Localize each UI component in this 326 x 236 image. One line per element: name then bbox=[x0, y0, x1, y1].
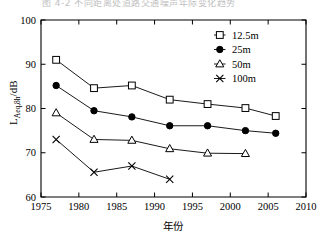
series-line bbox=[56, 113, 245, 154]
marker-open-square bbox=[53, 56, 60, 63]
marker-open-square bbox=[272, 113, 279, 120]
marker-open-square bbox=[91, 85, 98, 92]
legend-item-12.5m: 12.5m bbox=[214, 30, 259, 41]
marker-filled-circle bbox=[242, 127, 248, 133]
x-axis-title: 年份 bbox=[163, 220, 184, 232]
marker-open-square bbox=[128, 82, 135, 89]
y-title-unit: /dB bbox=[7, 80, 19, 96]
x-tick-label: 1985 bbox=[106, 201, 127, 212]
y-tick-label: 60 bbox=[26, 192, 37, 203]
marker-open-square bbox=[216, 32, 223, 39]
axis-ticks bbox=[41, 20, 306, 197]
legend-label: 25m bbox=[232, 44, 251, 55]
y-tick-label: 100 bbox=[20, 15, 36, 26]
x-tick-label: 1995 bbox=[182, 201, 203, 212]
legend-item-25m: 25m bbox=[214, 44, 251, 55]
marker-filled-circle bbox=[204, 123, 210, 129]
marker-open-triangle bbox=[241, 149, 249, 156]
x-tick-label: 2010 bbox=[296, 201, 317, 212]
y-tick-label: 70 bbox=[26, 147, 37, 158]
marker-filled-circle bbox=[91, 108, 97, 114]
chart-legend: 12.5m25m50m100m bbox=[214, 30, 259, 85]
x-tick-label: 1975 bbox=[31, 201, 52, 212]
marker-open-square bbox=[204, 101, 211, 108]
legend-item-50m: 50m bbox=[214, 59, 251, 70]
marker-filled-circle bbox=[53, 82, 59, 88]
marker-open-triangle bbox=[216, 60, 224, 67]
marker-open-triangle bbox=[128, 136, 136, 143]
legend-label: 100m bbox=[232, 73, 256, 84]
y-axis-title: LAeq,8h/dB bbox=[7, 80, 22, 125]
series-100m bbox=[53, 136, 174, 183]
marker-filled-circle bbox=[167, 123, 173, 129]
legend-label: 50m bbox=[232, 59, 251, 70]
noise-trend-chart: 图 4-2 不同距离处道路交通噪声年际变化趋势 1975198019851990… bbox=[0, 0, 326, 236]
marker-filled-circle bbox=[273, 130, 279, 136]
series-50m bbox=[52, 109, 249, 157]
legend-label: 12.5m bbox=[232, 30, 259, 41]
svg-text:LAeq,8h/dB: LAeq,8h/dB bbox=[7, 80, 22, 125]
marker-open-square bbox=[166, 96, 173, 103]
marker-open-triangle bbox=[52, 109, 60, 116]
x-tick-label: 2000 bbox=[220, 201, 241, 212]
x-tick-label: 2005 bbox=[258, 201, 279, 212]
y-tick-label: 80 bbox=[26, 103, 37, 114]
marker-open-triangle bbox=[90, 135, 98, 142]
x-tick-label: 1990 bbox=[144, 201, 165, 212]
chart-svg: 1975198019851990199520002005201060708090… bbox=[0, 0, 326, 236]
y-tick-label: 90 bbox=[26, 59, 37, 70]
marker-filled-circle bbox=[129, 114, 135, 120]
series-line bbox=[56, 139, 170, 179]
marker-open-square bbox=[242, 105, 249, 112]
legend-item-100m: 100m bbox=[214, 73, 256, 84]
plot-frame bbox=[41, 20, 306, 197]
x-tick-label: 1980 bbox=[68, 201, 89, 212]
y-title-sub: Aeq,8h bbox=[13, 96, 22, 118]
marker-filled-circle bbox=[217, 46, 223, 52]
